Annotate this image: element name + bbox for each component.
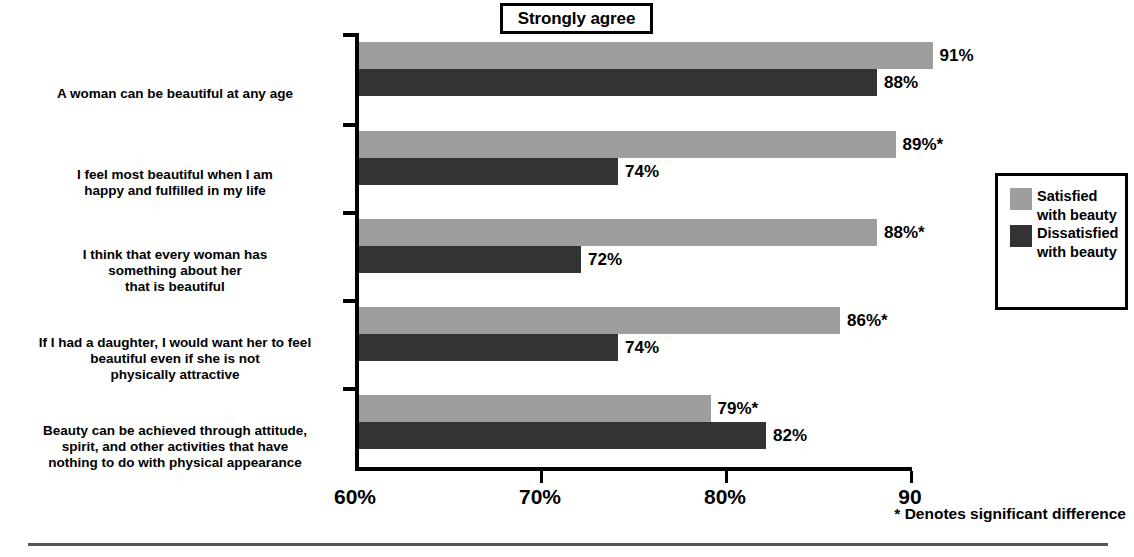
bar-satisfied-3 xyxy=(359,307,840,334)
bar-dissatisfied-1 xyxy=(359,158,618,185)
legend-label-0: Satisfied with beauty xyxy=(1037,187,1117,225)
footnote: * Denotes significant difference xyxy=(894,505,1126,523)
legend-item-1: Dissatisfied with beauty xyxy=(1010,225,1125,262)
x-axis-label-70%: 70% xyxy=(519,485,561,509)
bar-value-label: 91% xyxy=(940,46,974,66)
bar-value-label: 74% xyxy=(625,162,659,182)
bar-satisfied-0 xyxy=(359,42,933,69)
bar-value-label: 89%* xyxy=(903,135,944,155)
y-axis-tick-3 xyxy=(343,299,355,303)
bar-dissatisfied-0 xyxy=(359,69,877,96)
y-axis-tick-0 xyxy=(343,33,355,37)
bar-value-label: 88%* xyxy=(884,223,925,243)
bar-dissatisfied-3 xyxy=(359,334,618,361)
y-axis-tick-1 xyxy=(343,123,355,127)
bar-value-label: 88% xyxy=(884,73,918,93)
legend-item-0: Satisfied with beauty xyxy=(1010,188,1125,225)
category-label-4: Beauty can be achieved through attitude,… xyxy=(10,423,340,471)
plot-area: 60%70%80%90 91%88%89%*74%88%*72%86%*74%7… xyxy=(355,33,910,471)
category-label-2: I think that every woman has something a… xyxy=(10,247,340,295)
bar-value-label: 72% xyxy=(588,250,622,270)
x-axis-label-80%: 80% xyxy=(704,485,746,509)
x-axis-tick-70% xyxy=(540,471,543,483)
y-axis-tick-2 xyxy=(343,211,355,215)
bar-value-label: 86%* xyxy=(847,311,888,331)
bar-value-label: 82% xyxy=(773,426,807,446)
bottom-divider xyxy=(28,543,1108,546)
bar-value-label: 79%* xyxy=(718,399,759,419)
x-axis-tick-90 xyxy=(910,471,913,483)
bar-satisfied-2 xyxy=(359,219,877,246)
bar-dissatisfied-2 xyxy=(359,246,581,273)
chart-title-box: Strongly agree xyxy=(500,3,653,34)
x-axis-line xyxy=(355,467,912,471)
chart-title: Strongly agree xyxy=(518,9,636,29)
category-label-3: If I had a daughter, I would want her to… xyxy=(10,335,340,383)
bar-satisfied-4 xyxy=(359,395,711,422)
bar-dissatisfied-4 xyxy=(359,422,766,449)
legend-label-1: Dissatisfied with beauty xyxy=(1037,224,1118,262)
chart-legend: Satisfied with beautyDissatisfied with b… xyxy=(995,173,1128,310)
legend-swatch-dissatisfied xyxy=(1010,225,1032,247)
y-axis-tick-4 xyxy=(343,387,355,391)
x-axis-tick-80% xyxy=(725,471,728,483)
bar-satisfied-1 xyxy=(359,131,896,158)
category-label-0: A woman can be beautiful at any age xyxy=(10,86,340,102)
category-label-1: I feel most beautiful when I am happy an… xyxy=(10,167,340,199)
x-axis-label-60%: 60% xyxy=(334,485,376,509)
bar-value-label: 74% xyxy=(625,338,659,358)
legend-swatch-satisfied xyxy=(1010,188,1032,210)
